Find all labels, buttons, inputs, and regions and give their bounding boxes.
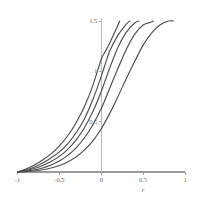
data-curve-1: [18, 21, 120, 172]
y-tick-label: 0.5: [0, 118, 97, 125]
data-curve-5: [18, 21, 174, 172]
x-tick-label: -1: [15, 177, 20, 184]
axes-group: [18, 18, 186, 176]
data-curves-group: [18, 21, 174, 172]
x-tick-label: 1: [183, 177, 186, 184]
exponential-growth-chart: -1-0.500.51 0.511.5 r: [0, 0, 198, 206]
x-axis-title: r: [142, 187, 145, 194]
x-tick-label: 0.5: [139, 177, 147, 184]
y-tick-label: 1: [0, 68, 97, 75]
x-tick-label: -0.5: [54, 177, 64, 184]
y-tick-label: 1.5: [0, 18, 97, 25]
data-curve-2: [18, 21, 130, 172]
x-tick-label: 0: [100, 177, 103, 184]
data-curve-3: [18, 21, 139, 172]
